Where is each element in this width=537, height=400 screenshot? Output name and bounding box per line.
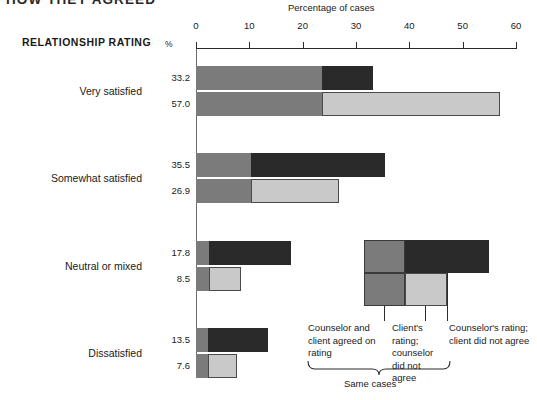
x-tick-mark	[196, 42, 197, 49]
legend-swatch-agreed-bottom	[364, 273, 405, 306]
x-tick-mark	[356, 42, 357, 49]
x-tick-label: 50	[457, 20, 468, 31]
bar-segment-agreed	[196, 267, 210, 291]
x-tick-label: 30	[351, 20, 362, 31]
bar-segment-client-only	[208, 354, 237, 378]
same-cases-brace	[306, 360, 456, 376]
x-tick-mark	[249, 42, 250, 49]
x-axis-title: Percentage of cases	[288, 2, 375, 13]
legend-leader-line-agreed	[384, 306, 385, 321]
x-tick-label: 60	[511, 20, 522, 31]
bar-value-label: 7.6	[144, 360, 190, 371]
bar-value-label: 26.9	[144, 185, 190, 196]
category-label: Very satisfied	[0, 85, 142, 97]
bar-segment-agreed	[196, 241, 210, 265]
y-axis-title: RELATIONSHIP RATING	[22, 36, 151, 48]
legend-label-counselor: Counselor's rating; client did not agree	[449, 322, 533, 347]
x-tick-mark	[516, 42, 517, 49]
legend-swatch-client	[405, 273, 447, 306]
bar-value-label: 17.8	[144, 247, 190, 258]
percent-symbol-label: %	[165, 39, 173, 49]
bar-segment-client-only	[251, 179, 340, 203]
x-tick-mark	[463, 42, 464, 49]
bar-segment-counselor-only	[209, 241, 291, 265]
x-tick-mark	[303, 42, 304, 49]
legend-swatch-agreed-top	[364, 240, 405, 273]
bar-value-label: 8.5	[144, 273, 190, 284]
category-label: Somewhat satisfied	[0, 172, 142, 184]
x-tick-label: 20	[297, 20, 308, 31]
bar-value-label: 33.2	[144, 72, 190, 83]
bar-value-label: 57.0	[144, 98, 190, 109]
x-tick-label: 40	[404, 20, 415, 31]
chart-canvas: HOW THEY AGREED Percentage of cases RELA…	[0, 0, 537, 400]
bar-value-label: 13.5	[144, 334, 190, 345]
bar-segment-client-only	[209, 267, 242, 291]
page-title: HOW THEY AGREED	[6, 0, 156, 7]
bar-segment-agreed	[196, 153, 252, 177]
legend-label-agreed: Counselor and client agreed on rating	[308, 322, 388, 360]
x-tick-mark	[409, 42, 410, 49]
bar-segment-counselor-only	[322, 66, 373, 90]
bar-segment-agreed	[196, 92, 323, 116]
bar-value-label: 35.5	[144, 159, 190, 170]
legend-leader-line-counselor	[447, 273, 448, 321]
bar-segment-client-only	[322, 92, 500, 116]
category-label: Neutral or mixed	[0, 260, 142, 272]
bar-segment-counselor-only	[251, 153, 385, 177]
legend-leader-line-client	[425, 306, 426, 321]
x-tick-label: 0	[193, 20, 198, 31]
bar-segment-agreed	[196, 66, 323, 90]
category-label: Dissatisfied	[0, 347, 142, 359]
bar-segment-counselor-only	[208, 328, 268, 352]
same-cases-label: Same cases	[344, 378, 396, 389]
legend-swatch-counselor	[405, 240, 489, 273]
bar-segment-agreed	[196, 179, 252, 203]
x-tick-label: 10	[244, 20, 255, 31]
